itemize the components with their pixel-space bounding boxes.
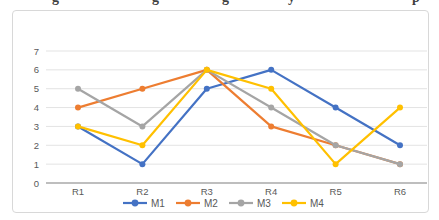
legend-item-M1-marker — [132, 200, 139, 207]
series-M1-marker-R2 — [139, 161, 145, 167]
x-tick-label-R4: R4 — [265, 186, 277, 197]
series-M3-marker-R5 — [333, 142, 339, 148]
clipped-glyph-2: g — [222, 0, 229, 6]
series-M3-marker-R4 — [268, 105, 274, 111]
y-tick-label-6: 6 — [34, 64, 39, 75]
x-tick-label-R1: R1 — [72, 186, 84, 197]
series-M3-marker-R6 — [397, 161, 403, 167]
y-tick-label-7: 7 — [34, 46, 39, 57]
y-tick-label-3: 3 — [34, 121, 39, 132]
series-M4-marker-R2 — [139, 142, 145, 148]
clipped-glyph-3: y — [288, 0, 295, 6]
y-tick-label-5: 5 — [34, 83, 39, 94]
series-M3-marker-R1 — [75, 86, 81, 92]
legend-item-M1-label: M1 — [151, 198, 165, 209]
series-M2-marker-R1 — [75, 105, 81, 111]
y-tick-label-0: 0 — [34, 178, 39, 189]
series-M4-marker-R5 — [333, 161, 339, 167]
series-M2-marker-R2 — [139, 86, 145, 92]
series-M1-marker-R4 — [268, 67, 274, 73]
legend-item-M3-marker — [238, 200, 245, 207]
y-tick-label-2: 2 — [34, 140, 39, 151]
clipped-glyph-0: g — [52, 0, 59, 6]
series-M2-marker-R4 — [268, 123, 274, 129]
series-M4-marker-R6 — [397, 105, 403, 111]
y-tick-label-1: 1 — [34, 159, 39, 170]
y-tick-label-4: 4 — [34, 102, 39, 113]
x-tick-label-R5: R5 — [330, 186, 342, 197]
series-M3-marker-R2 — [139, 123, 145, 129]
legend-item-M4-label: M4 — [310, 198, 324, 209]
x-tick-label-R6: R6 — [394, 186, 406, 197]
x-tick-label-R2: R2 — [136, 186, 148, 197]
x-tick-label-R3: R3 — [201, 186, 213, 197]
legend-item-M2-label: M2 — [204, 198, 218, 209]
legend-item-M3-label: M3 — [257, 198, 271, 209]
series-M1-marker-R6 — [397, 142, 403, 148]
series-M4-marker-R1 — [75, 123, 81, 129]
clipped-text-line: gggyp — [0, 0, 439, 6]
chart-frame: 01234567R1R2R3R4R5R6M1M2M3M4 — [12, 10, 429, 213]
legend-item-M4-marker — [291, 200, 298, 207]
series-M1-marker-R5 — [333, 105, 339, 111]
series-M1-marker-R3 — [204, 86, 210, 92]
legend-item-M2-marker — [185, 200, 192, 207]
line-chart: 01234567R1R2R3R4R5R6M1M2M3M4 — [13, 11, 428, 212]
series-M4-marker-R4 — [268, 86, 274, 92]
clipped-glyph-4: p — [412, 0, 420, 6]
series-M4-marker-R3 — [204, 67, 210, 73]
clipped-glyph-1: g — [152, 0, 159, 6]
